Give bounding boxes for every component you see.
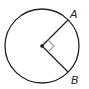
radius-b bbox=[42, 46, 68, 72]
circle-diagram: A B bbox=[0, 0, 89, 89]
point-label-b: B bbox=[71, 74, 79, 87]
right-angle-marker bbox=[48, 40, 54, 52]
center-point bbox=[40, 44, 44, 48]
point-label-a: A bbox=[69, 8, 78, 21]
radius-a bbox=[42, 20, 68, 46]
